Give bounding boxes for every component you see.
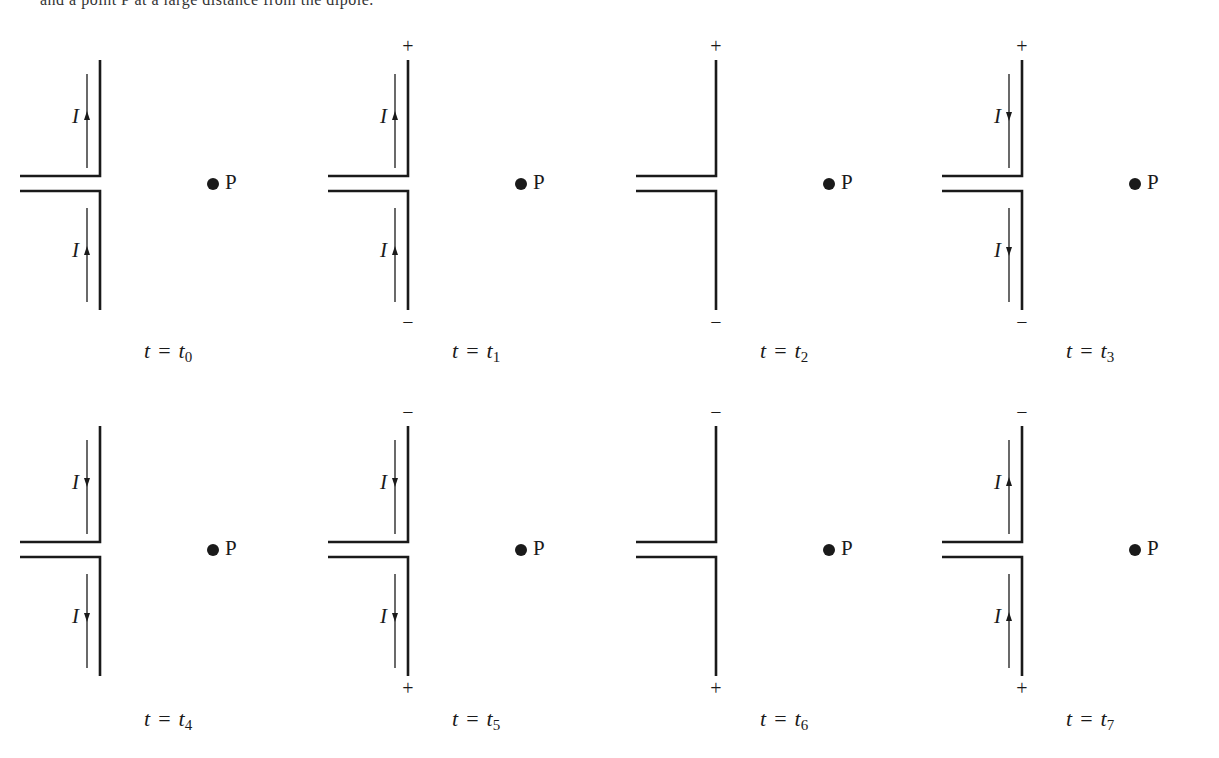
dipole-panel-t2: P+−t=t2 bbox=[634, 48, 934, 418]
point-p-label: P bbox=[1147, 170, 1159, 195]
upper-current-label: I bbox=[380, 104, 387, 129]
lower-current-label: I bbox=[72, 604, 79, 629]
dipole-panel-t6: P−+t=t6 bbox=[634, 414, 934, 758]
lower-current-arrow-down-icon bbox=[392, 613, 398, 622]
upper-current-arrow-down-icon bbox=[1006, 112, 1012, 121]
equals-sign: = bbox=[466, 706, 478, 731]
top-charge-sign: + bbox=[1012, 36, 1032, 56]
time-caption: t=t4 bbox=[144, 706, 192, 734]
upper-current-label: I bbox=[994, 104, 1001, 129]
dipole-panel-t3: IIP+−t=t3 bbox=[940, 48, 1219, 418]
bottom-charge-sign: − bbox=[706, 312, 726, 332]
time-symbol: t bbox=[1066, 706, 1072, 731]
top-charge-sign: + bbox=[706, 36, 726, 56]
upper-current-label: I bbox=[72, 470, 79, 495]
time-caption: t=t1 bbox=[452, 338, 500, 366]
dipole-panel-t0: IIPt=t0 bbox=[18, 48, 318, 418]
point-p-label: P bbox=[533, 536, 545, 561]
time-symbol: t bbox=[760, 706, 766, 731]
point-p-dot-icon bbox=[207, 178, 219, 190]
time-subscript: 6 bbox=[801, 717, 809, 733]
equals-sign: = bbox=[158, 338, 170, 363]
top-charge-sign: − bbox=[706, 402, 726, 422]
time-subscript: 1 bbox=[493, 349, 501, 365]
lower-current-label: I bbox=[380, 238, 387, 263]
dipole-panel-t5: IIP−+t=t5 bbox=[326, 414, 626, 758]
time-symbol: t bbox=[760, 338, 766, 363]
lower-antenna-arm bbox=[636, 191, 716, 310]
dipole-panel-t7: IIP−+t=t7 bbox=[940, 414, 1219, 758]
point-p-dot-icon bbox=[823, 178, 835, 190]
lower-antenna-arm bbox=[636, 557, 716, 676]
upper-antenna-arm bbox=[636, 426, 716, 542]
time-subscript: 7 bbox=[1107, 717, 1115, 733]
time-subscript: 4 bbox=[185, 717, 193, 733]
upper-antenna-arm bbox=[636, 60, 716, 176]
bottom-charge-sign: + bbox=[398, 678, 418, 698]
point-p-dot-icon bbox=[515, 178, 527, 190]
lower-current-label: I bbox=[72, 238, 79, 263]
equals-sign: = bbox=[1080, 338, 1092, 363]
upper-current-arrow-up-icon bbox=[1006, 477, 1012, 486]
point-p-dot-icon bbox=[207, 544, 219, 556]
equals-sign: = bbox=[774, 706, 786, 731]
point-p-dot-icon bbox=[1129, 178, 1141, 190]
top-charge-sign: + bbox=[398, 36, 418, 56]
lower-current-arrow-down-icon bbox=[1006, 247, 1012, 256]
top-charge-sign: − bbox=[1012, 402, 1032, 422]
time-symbol: t bbox=[1066, 338, 1072, 363]
time-subscript: 5 bbox=[493, 717, 501, 733]
time-symbol: t bbox=[144, 706, 150, 731]
bottom-charge-sign: − bbox=[398, 312, 418, 332]
bottom-charge-sign: − bbox=[1012, 312, 1032, 332]
time-symbol: t bbox=[144, 338, 150, 363]
point-p-label: P bbox=[841, 170, 853, 195]
point-p-label: P bbox=[1147, 536, 1159, 561]
time-caption: t=t6 bbox=[760, 706, 808, 734]
time-symbol: t bbox=[452, 706, 458, 731]
lower-current-arrow-up-icon bbox=[1006, 612, 1012, 621]
upper-current-label: I bbox=[72, 104, 79, 129]
point-p-dot-icon bbox=[515, 544, 527, 556]
upper-current-arrow-down-icon bbox=[392, 478, 398, 487]
time-caption: t=t7 bbox=[1066, 706, 1114, 734]
point-p-label: P bbox=[841, 536, 853, 561]
equals-sign: = bbox=[466, 338, 478, 363]
time-caption: t=t0 bbox=[144, 338, 192, 366]
dipole-panel-t4: IIPt=t4 bbox=[18, 414, 318, 758]
top-charge-sign: − bbox=[398, 402, 418, 422]
upper-current-label: I bbox=[380, 470, 387, 495]
time-subscript: 0 bbox=[185, 349, 193, 365]
time-subscript: 2 bbox=[801, 349, 809, 365]
point-p-label: P bbox=[533, 170, 545, 195]
equals-sign: = bbox=[1080, 706, 1092, 731]
lower-current-arrow-up-icon bbox=[392, 246, 398, 255]
cutoff-caption-text: and a point P at a large distance from t… bbox=[40, 0, 374, 9]
bottom-charge-sign: + bbox=[1012, 678, 1032, 698]
point-p-label: P bbox=[225, 170, 237, 195]
upper-current-arrow-up-icon bbox=[392, 111, 398, 120]
lower-current-arrow-up-icon bbox=[84, 246, 90, 255]
equals-sign: = bbox=[158, 706, 170, 731]
lower-current-label: I bbox=[994, 238, 1001, 263]
lower-current-label: I bbox=[380, 604, 387, 629]
upper-current-arrow-down-icon bbox=[84, 478, 90, 487]
point-p-dot-icon bbox=[823, 544, 835, 556]
lower-current-arrow-down-icon bbox=[84, 613, 90, 622]
lower-current-label: I bbox=[994, 604, 1001, 629]
time-subscript: 3 bbox=[1107, 349, 1115, 365]
bottom-charge-sign: + bbox=[706, 678, 726, 698]
time-symbol: t bbox=[452, 338, 458, 363]
time-caption: t=t2 bbox=[760, 338, 808, 366]
time-caption: t=t3 bbox=[1066, 338, 1114, 366]
upper-current-label: I bbox=[994, 470, 1001, 495]
point-p-label: P bbox=[225, 536, 237, 561]
time-caption: t=t5 bbox=[452, 706, 500, 734]
equals-sign: = bbox=[774, 338, 786, 363]
upper-current-arrow-up-icon bbox=[84, 111, 90, 120]
point-p-dot-icon bbox=[1129, 544, 1141, 556]
dipole-panel-t1: IIP+−t=t1 bbox=[326, 48, 626, 418]
